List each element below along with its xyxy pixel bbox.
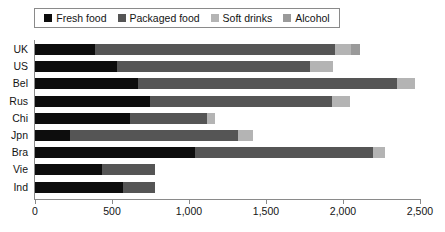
x-axis-tick-label: 1,500 [253,206,279,217]
bar-segment[interactable] [35,130,70,141]
y-axis-tick-label: US [13,61,28,72]
bar-segment[interactable] [207,113,215,124]
bar-segment[interactable] [130,113,207,124]
legend-swatch-icon [283,14,291,22]
bar-segment[interactable] [35,182,123,193]
bar-segment[interactable] [150,96,332,107]
y-axis-tick-label: Ind [13,182,28,193]
bar-segment[interactable] [35,164,102,175]
bar-segment[interactable] [373,147,385,158]
legend-item[interactable]: Soft drinks [211,13,273,24]
y-axis-tick-label: Jpn [11,130,28,141]
x-axis-tick-label: 2,500 [407,206,433,217]
bar-segment[interactable] [35,78,138,89]
bar-segment[interactable] [310,61,333,72]
y-axis-tick-label: Vie [13,164,28,175]
legend-swatch-icon [211,14,219,22]
stacked-bar-chart: Fresh foodPackaged foodSoft drinksAlcoho… [0,0,445,232]
bar-segment[interactable] [35,61,117,72]
legend-swatch-icon [118,14,126,22]
x-axis-tick-mark [112,200,113,204]
bars-group [35,40,420,198]
x-axis-tick-label: 1,000 [176,206,202,217]
chart-legend: Fresh foodPackaged foodSoft drinksAlcoho… [34,8,340,28]
y-axis-tick-label: Bra [12,147,28,158]
bar-segment[interactable] [35,113,130,124]
x-axis-tick-label: 500 [103,206,121,217]
bar-segment[interactable] [95,44,335,55]
bar-segment[interactable] [35,96,150,107]
plot-area [35,40,420,198]
legend-item[interactable]: Alcohol [283,13,329,24]
bar-segment[interactable] [238,130,253,141]
bar-segment[interactable] [332,96,350,107]
legend-item-label: Soft drinks [223,13,273,24]
bar-segment[interactable] [70,130,238,141]
x-axis-tick-label: 0 [32,206,38,217]
bar-row[interactable] [35,61,420,72]
bar-segment[interactable] [102,164,155,175]
legend-swatch-icon [44,14,52,22]
bar-segment[interactable] [351,44,359,55]
bar-segment[interactable] [335,44,351,55]
y-axis-tick-label: Rus [9,96,28,107]
bar-row[interactable] [35,96,420,107]
bar-segment[interactable] [123,182,155,193]
x-axis-line [34,199,421,200]
x-axis-tick-mark [420,200,421,204]
bar-segment[interactable] [35,44,95,55]
bar-segment[interactable] [195,147,373,158]
bar-segment[interactable] [117,61,310,72]
y-axis-labels: UKUSBelRusChiJpnBraVieInd [0,40,32,198]
y-axis-tick-label: Bel [13,78,28,89]
y-axis-tick-label: Chi [12,113,28,124]
x-axis-tick-mark [35,200,36,204]
legend-item[interactable]: Fresh food [44,13,106,24]
legend-item-label: Alcohol [295,13,329,24]
bar-segment[interactable] [35,147,195,158]
x-axis-tick-mark [266,200,267,204]
bar-segment[interactable] [397,78,415,89]
x-axis-tick-mark [189,200,190,204]
bar-row[interactable] [35,130,420,141]
x-axis-tick-label: 2,000 [330,206,356,217]
bar-row[interactable] [35,164,420,175]
bar-row[interactable] [35,113,420,124]
bar-row[interactable] [35,44,420,55]
bar-row[interactable] [35,182,420,193]
x-axis-tick-mark [343,200,344,204]
legend-item[interactable]: Packaged food [118,13,200,24]
legend-item-label: Fresh food [56,13,106,24]
bar-row[interactable] [35,147,420,158]
y-axis-tick-label: UK [13,44,28,55]
bar-segment[interactable] [138,78,397,89]
bar-row[interactable] [35,78,420,89]
legend-item-label: Packaged food [130,13,200,24]
